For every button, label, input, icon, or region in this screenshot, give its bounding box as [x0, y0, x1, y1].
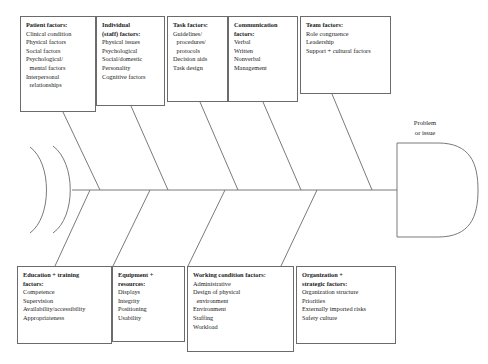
cause-list-equipment-resources: Displays Integrity Positioning Usability: [118, 288, 180, 322]
bone-bottom-working-conditions: [188, 190, 225, 266]
cause-item: Verbal: [234, 38, 293, 47]
effect-label-line1: Problem: [390, 118, 460, 128]
cause-item: Organization structure: [302, 288, 391, 297]
effect-label: Problem or issue: [390, 118, 460, 137]
cause-list-task-factors: Guidelines/ procedures/ protocols Decisi…: [173, 30, 223, 73]
cause-item: Guidelines/: [173, 30, 223, 39]
bone-top-task-factors: [200, 102, 238, 190]
cause-item: Interpersonal: [26, 73, 91, 82]
cause-item: Safety culture: [302, 314, 391, 323]
cause-item: Social/domestic: [102, 55, 160, 64]
bone-top-team-factors: [332, 94, 372, 190]
cause-list-patient-factors: Clinical condition Physical factors Soci…: [26, 30, 91, 90]
cause-item: Externally imported risks: [302, 305, 391, 314]
cause-list-education-training-factors: Competence Supervision Availability/acce…: [23, 288, 107, 322]
cause-box-individual-staff-factors[interactable]: Individual (staff) factors: Physical iss…: [96, 16, 165, 106]
cause-list-working-condition-factors: Administrative Design of physical enviro…: [193, 280, 289, 332]
cause-item: Priorities: [302, 297, 391, 306]
effect-label-line2: or issue: [390, 128, 460, 138]
cause-item: Design of physical: [193, 288, 289, 297]
cause-item: Task design: [173, 64, 223, 73]
cause-box-education-training-factors[interactable]: Education + training factors: Competence…: [17, 266, 112, 344]
cause-title-organization-strategic-factors: Organization + strategic factors:: [302, 271, 391, 288]
cause-item: Personality: [102, 64, 160, 73]
cause-item: Availability/accessibility: [23, 305, 107, 314]
cause-item: Supervision: [23, 297, 107, 306]
cause-item: Leadership: [306, 38, 386, 47]
cause-item: Appropriateness: [23, 314, 107, 323]
cause-list-communication-factors: Verbal Written Nonverbal Management: [234, 38, 293, 72]
cause-item: Role congruence: [306, 30, 386, 39]
cause-item: Positioning: [118, 305, 180, 314]
cause-list-team-factors: Role congruence Leadership Support + cul…: [306, 30, 386, 56]
bone-top-patient-factors: [63, 112, 100, 190]
cause-box-patient-factors[interactable]: Patient factors: Clinical condition Phys…: [20, 16, 96, 112]
cause-item: Workload: [193, 323, 289, 332]
cause-item: Social factors: [26, 47, 91, 56]
bone-bottom-organization-strategic: [281, 190, 317, 266]
cause-box-organization-strategic-factors[interactable]: Organization + strategic factors: Organi…: [296, 266, 396, 344]
cause-title-equipment-resources: Equipment + resources:: [118, 271, 180, 288]
cause-item: Physical issues: [102, 38, 160, 47]
cause-title-task-factors: Task factors:: [173, 21, 223, 30]
bone-top-communication-factors: [263, 102, 301, 190]
cause-box-equipment-resources[interactable]: Equipment + resources: Displays Integrit…: [112, 266, 185, 342]
cause-title-team-factors: Team factors:: [306, 21, 386, 30]
cause-item: Management: [234, 64, 293, 73]
tail-inner-arc: [53, 146, 70, 233]
cause-box-communication-factors[interactable]: Communication factors: Verbal Written No…: [228, 16, 298, 102]
fishbone-diagram: Patient factors: Clinical condition Phys…: [0, 0, 488, 364]
cause-item: Psychological/: [26, 55, 91, 64]
cause-item: Competence: [23, 288, 107, 297]
cause-item: mental factors: [26, 64, 91, 73]
cause-item: Integrity: [118, 297, 180, 306]
cause-item: environment: [193, 297, 289, 306]
cause-item: Staffing: [193, 314, 289, 323]
cause-item: Administrative: [193, 280, 289, 289]
cause-box-working-condition-factors[interactable]: Working condition factors: Administrativ…: [187, 266, 294, 352]
cause-item: Environment: [193, 305, 289, 314]
cause-list-organization-strategic-factors: Organization structure Priorities Extern…: [302, 288, 391, 322]
cause-item: relationships: [26, 81, 91, 90]
cause-title-working-condition-factors: Working condition factors:: [193, 271, 289, 280]
bone-top-individual-staff-factors: [131, 106, 168, 190]
cause-box-team-factors[interactable]: Team factors: Role congruence Leadership…: [300, 16, 391, 94]
cause-item: Nonverbal: [234, 55, 293, 64]
cause-title-patient-factors: Patient factors:: [26, 21, 91, 30]
cause-item: protocols: [173, 47, 223, 56]
cause-item: procedures/: [173, 38, 223, 47]
bone-bottom-education-training: [55, 190, 90, 266]
cause-title-individual-staff-factors: Individual (staff) factors:: [102, 21, 160, 38]
cause-item: Decision aids: [173, 55, 223, 64]
cause-title-communication-factors: Communication factors:: [234, 21, 293, 38]
cause-item: Cognitive factors: [102, 73, 160, 82]
cause-list-individual-staff-factors: Physical issues Psychological Social/dom…: [102, 38, 160, 81]
cause-item: Displays: [118, 288, 180, 297]
bone-bottom-equipment-resources: [113, 190, 150, 266]
cause-item: Written: [234, 47, 293, 56]
tail-outer-arc: [30, 147, 47, 233]
cause-box-task-factors[interactable]: Task factors: Guidelines/ procedures/ pr…: [167, 16, 228, 102]
cause-title-education-training-factors: Education + training factors:: [23, 271, 107, 288]
cause-item: Usability: [118, 314, 180, 323]
cause-item: Psychological: [102, 47, 160, 56]
cause-item: Clinical condition: [26, 30, 91, 39]
effect-head-shape: [397, 143, 478, 237]
cause-item: Physical factors: [26, 38, 91, 47]
cause-item: Support + cultural factors: [306, 47, 386, 56]
